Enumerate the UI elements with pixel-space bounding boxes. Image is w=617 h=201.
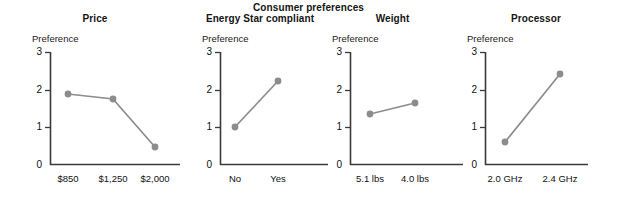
- data-point-price-1250: [110, 96, 117, 103]
- consumer-preferences-figure: Consumer preferences Price Preference 3 …: [0, 0, 617, 201]
- y-tick-label-1: 1: [28, 122, 42, 132]
- y-tick-label-3: 3: [463, 47, 477, 57]
- y-tick-label-1: 1: [463, 122, 477, 132]
- data-point-price-2000: [152, 144, 159, 151]
- y-tick-label-1: 1: [328, 122, 342, 132]
- y-tick-label-3: 3: [28, 47, 42, 57]
- x-tick-label-energy-star-no: No: [213, 174, 257, 184]
- data-point-energy-star-no: [232, 124, 239, 131]
- data-point-processor-2-4-ghz: [557, 71, 564, 78]
- data-point-weight-4-0-lbs: [412, 100, 419, 107]
- y-tick-label-2: 2: [463, 85, 477, 95]
- x-tick-label-energy-star-yes: Yes: [256, 174, 300, 184]
- x-tick-label-weight-4-0-lbs: 4.0 lbs: [389, 174, 441, 184]
- chart-panel-price: Price Preference 3 2 1 0 $850 $1,250 $2,…: [0, 0, 190, 201]
- y-tick-label-0: 0: [198, 160, 212, 170]
- series-line-processor: [505, 74, 560, 142]
- x-tick-label-price-2000: $2,000: [130, 174, 180, 184]
- plot-area-processor: [455, 0, 617, 201]
- y-tick-label-0: 0: [463, 160, 477, 170]
- data-point-processor-2-0-ghz: [502, 139, 509, 146]
- data-point-energy-star-yes: [275, 78, 282, 85]
- data-point-weight-5-1-lbs: [367, 111, 374, 118]
- plot-area-energy-star: [190, 0, 330, 201]
- y-tick-label-3: 3: [328, 47, 342, 57]
- chart-panel-processor: Processor Preference 3 2 1 0 2.0 GHz 2.4…: [455, 0, 617, 201]
- plot-area-price: [0, 0, 190, 201]
- y-tick-label-0: 0: [328, 160, 342, 170]
- y-tick-label-0: 0: [28, 160, 42, 170]
- chart-panel-energy-star: Energy Star compliant Preference 3 2 1 0…: [190, 0, 330, 201]
- series-line-energy-star: [235, 81, 278, 127]
- y-tick-label-2: 2: [28, 85, 42, 95]
- x-tick-label-processor-2-0-ghz: 2.0 GHz: [475, 174, 535, 184]
- x-tick-label-processor-2-4-ghz: 2.4 GHz: [530, 174, 590, 184]
- y-tick-label-1: 1: [198, 122, 212, 132]
- plot-area-weight: [320, 0, 465, 201]
- y-tick-label-2: 2: [328, 85, 342, 95]
- data-point-price-850: [65, 91, 72, 98]
- series-line-weight: [370, 103, 415, 114]
- chart-panel-weight: Weight Preference 3 2 1 0 5.1 lbs 4.0 lb…: [320, 0, 465, 201]
- y-tick-label-3: 3: [198, 47, 212, 57]
- x-tick-label-price-850: $850: [43, 174, 93, 184]
- y-tick-label-2: 2: [198, 85, 212, 95]
